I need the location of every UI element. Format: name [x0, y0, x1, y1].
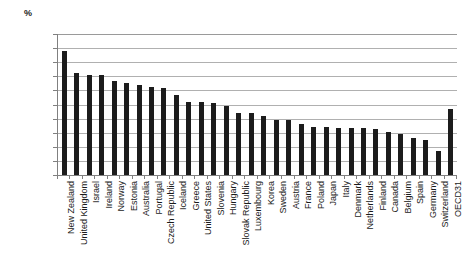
x-tick-mark — [331, 175, 332, 179]
x-tick-label: Czech Republic — [167, 181, 176, 244]
x-tick-mark — [456, 175, 457, 179]
x-tick-label: Greece — [192, 181, 201, 211]
x-tick-mark — [157, 175, 158, 179]
bar — [386, 132, 391, 175]
x-tick-label: Portugal — [155, 181, 164, 215]
x-axis-labels: New ZealandUnited KingdomIsraelIrelandNo… — [57, 181, 456, 276]
bar — [398, 134, 403, 175]
x-tick-label: Luxembourg — [254, 181, 263, 231]
bar-chart: % 100.090.080.070.060.050.040.030.020.01… — [0, 0, 473, 278]
x-tick-mark — [69, 175, 70, 179]
bar — [286, 120, 291, 175]
x-tick-label: Germany — [429, 181, 438, 218]
bar — [149, 87, 154, 175]
x-tick-label: Korea — [267, 181, 276, 205]
bar — [137, 85, 142, 175]
x-tick-label: Israel — [92, 181, 101, 203]
x-tick-mark — [82, 175, 83, 179]
x-tick-label: Slovenia — [217, 181, 226, 216]
bar — [373, 129, 378, 175]
x-tick-label: Spain — [416, 181, 425, 204]
bar — [236, 113, 241, 175]
x-tick-mark — [319, 175, 320, 179]
x-tick-label: Austria — [292, 181, 301, 209]
x-tick-label: Australia — [142, 181, 151, 216]
x-tick-mark — [294, 175, 295, 179]
x-tick-label: Canada — [391, 181, 400, 213]
bar — [324, 127, 329, 175]
x-tick-label: New Zealand — [67, 181, 76, 234]
bar — [161, 88, 166, 175]
x-tick-label: Italy — [342, 181, 351, 198]
x-tick-mark — [381, 175, 382, 179]
x-tick-mark — [344, 175, 345, 179]
x-tick-mark — [369, 175, 370, 179]
x-tick-label: France — [304, 181, 313, 209]
x-tick-label: Belgium — [404, 181, 413, 214]
x-tick-mark — [182, 175, 183, 179]
x-tick-label: Slovak Republic — [242, 181, 251, 246]
bar — [274, 120, 279, 175]
x-tick-label: Norway — [117, 181, 126, 212]
x-tick-label: Sweden — [279, 181, 288, 214]
bar — [411, 138, 416, 175]
bar — [62, 51, 67, 175]
x-tick-label: OECD31 — [454, 181, 463, 217]
bar — [436, 151, 441, 175]
x-tick-mark — [269, 175, 270, 179]
x-tick-label: Ireland — [105, 181, 114, 209]
x-tick-label: Netherlands — [366, 181, 375, 230]
bar — [249, 113, 254, 175]
x-tick-mark — [431, 175, 432, 179]
x-tick-mark — [207, 175, 208, 179]
bar — [311, 127, 316, 175]
x-tick-mark — [394, 175, 395, 179]
x-tick-label: Japan — [329, 181, 338, 206]
bar — [199, 102, 204, 175]
bar — [211, 103, 216, 175]
bar — [186, 102, 191, 175]
bar — [87, 75, 92, 175]
x-tick-label: Denmark — [354, 181, 363, 218]
bar — [74, 73, 79, 175]
plot-area — [57, 34, 457, 176]
x-tick-label: Poland — [317, 181, 326, 209]
x-tick-label: United States — [204, 181, 213, 235]
bars-layer — [58, 34, 457, 175]
x-tick-mark — [232, 175, 233, 179]
x-tick-mark — [244, 175, 245, 179]
x-tick-mark — [194, 175, 195, 179]
x-tick-mark — [356, 175, 357, 179]
x-tick-label: Iceland — [179, 181, 188, 210]
bar — [99, 75, 104, 175]
x-axis-ticks — [57, 175, 456, 180]
y-axis: 100.090.080.070.060.050.040.030.020.010.… — [0, 0, 57, 278]
x-tick-mark — [306, 175, 307, 179]
x-tick-mark — [169, 175, 170, 179]
x-tick-label: Finland — [379, 181, 388, 211]
x-tick-mark — [444, 175, 445, 179]
x-tick-mark — [219, 175, 220, 179]
bar — [112, 81, 117, 175]
bar — [299, 124, 304, 175]
x-tick-mark — [132, 175, 133, 179]
x-tick-label: Hungary — [229, 181, 238, 215]
bar — [174, 95, 179, 175]
x-tick-label: Switzerland — [441, 181, 450, 228]
bar — [349, 128, 354, 175]
x-tick-mark — [144, 175, 145, 179]
x-tick-mark — [406, 175, 407, 179]
x-tick-mark — [419, 175, 420, 179]
x-tick-mark — [94, 175, 95, 179]
x-tick-label: United Kingdom — [80, 181, 89, 245]
bar — [448, 109, 453, 175]
x-tick-label: Estonia — [130, 181, 139, 211]
bar — [423, 140, 428, 175]
x-tick-mark — [107, 175, 108, 179]
bar — [336, 128, 341, 175]
bar — [224, 106, 229, 175]
x-tick-mark — [281, 175, 282, 179]
bar — [361, 128, 366, 175]
bar — [124, 83, 129, 175]
x-tick-mark — [57, 175, 58, 179]
